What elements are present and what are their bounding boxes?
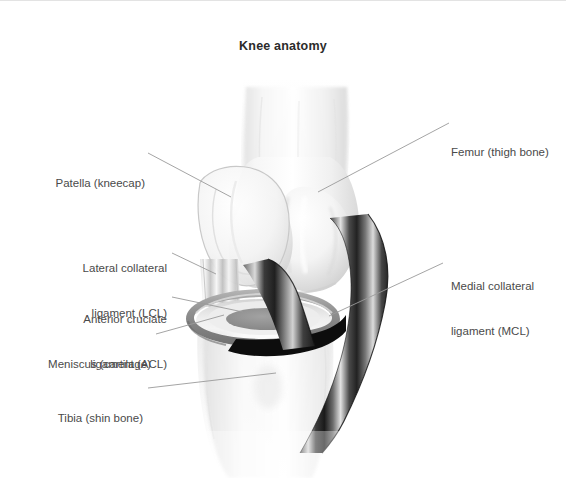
label-tibia-line1: Tibia (shin bone)	[0, 411, 143, 426]
label-patella-line1: Patella (kneecap)	[0, 176, 145, 191]
label-femur-line1: Femur (thigh bone)	[451, 145, 549, 160]
knee-anatomy-figure: Knee anatomy	[0, 0, 566, 478]
label-lcl-line1: Lateral collateral	[0, 261, 167, 276]
label-tibia: Tibia (shin bone)	[0, 381, 143, 456]
label-mcl-line2: ligament (MCL)	[451, 324, 534, 339]
label-mcl-line1: Medial collateral	[451, 279, 534, 294]
label-acl-line1: Anterior cruciate	[0, 312, 167, 327]
label-patella: Patella (kneecap)	[0, 146, 145, 221]
label-meniscus-line1: Meniscus (cartilage)	[0, 357, 151, 372]
label-mcl: Medial collateral ligament (MCL)	[451, 249, 534, 369]
label-femur: Femur (thigh bone)	[451, 115, 549, 190]
